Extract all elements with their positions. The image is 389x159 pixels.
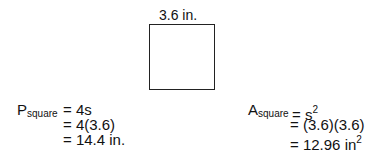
area-line-3: = 12.96 in2 bbox=[290, 132, 362, 152]
perimeter-line-3: = 14.4 in. bbox=[63, 132, 125, 147]
perimeter-symbol: Psquare bbox=[17, 102, 58, 121]
area-symbol: Asquare bbox=[248, 102, 289, 121]
area-line-3-text: = 12.96 in bbox=[290, 136, 356, 153]
area-line-1-exp: 2 bbox=[312, 104, 318, 115]
perimeter-P: P bbox=[17, 101, 27, 118]
side-length-label: 3.6 in. bbox=[159, 7, 197, 23]
area-A: A bbox=[248, 101, 258, 118]
perimeter-line-2: = 4(3.6) bbox=[63, 117, 115, 132]
area-line-3-exp: 2 bbox=[356, 134, 362, 145]
square-shape bbox=[149, 24, 215, 90]
perimeter-line-1: = 4s bbox=[63, 102, 92, 117]
area-line-2: = (3.6)(3.6) bbox=[290, 117, 365, 132]
area-subscript: square bbox=[258, 108, 289, 119]
perimeter-subscript: square bbox=[27, 108, 58, 119]
